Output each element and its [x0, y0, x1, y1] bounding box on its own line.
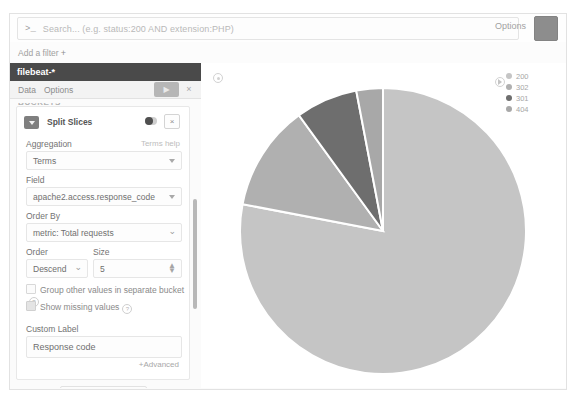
number-stepper-icon[interactable]: ▲▼	[168, 263, 176, 273]
search-input-placeholder: Search... (e.g. status:200 AND extension…	[43, 24, 234, 34]
kibana-visualize-app: >_ Search... (e.g. status:200 AND extens…	[9, 13, 567, 390]
chevron-down-icon: ⌄	[168, 227, 176, 236]
custom-label-input[interactable]: Response code	[26, 336, 182, 358]
legend-item[interactable]: 301	[506, 93, 550, 104]
chart-legend: 200302301404	[506, 71, 550, 115]
field-select-value: apache2.access.response_code	[33, 192, 155, 202]
show-missing-values-checkbox-row[interactable]: Show missing values?	[26, 301, 132, 314]
order-select-value: Descend	[33, 264, 67, 274]
enable-aggregation-toggle[interactable]	[145, 117, 157, 125]
field-label: Field	[26, 175, 44, 185]
bucket-aggregation-card: Split Slices × Aggregation Terms help Te…	[16, 106, 190, 380]
show-missing-values-checkbox[interactable]	[26, 301, 36, 311]
order-label: Order	[26, 247, 48, 257]
chevron-down-icon: ⌄	[74, 263, 82, 272]
order-by-select[interactable]: metric: Total requests ⌄	[26, 223, 182, 242]
show-missing-values-label: Show missing values	[40, 302, 119, 312]
legend-color-swatch	[506, 84, 512, 90]
legend-item[interactable]: 302	[506, 82, 550, 93]
plus-icon: +	[61, 48, 66, 58]
legend-item[interactable]: 404	[506, 104, 550, 115]
search-submit-button[interactable]	[534, 16, 558, 41]
aggregation-help-link[interactable]: Terms help	[141, 139, 180, 148]
size-input[interactable]: 5 ▲▼	[93, 259, 182, 278]
custom-label-input-value: Response code	[33, 342, 96, 352]
help-icon[interactable]: ?	[122, 304, 132, 314]
chevron-down-icon	[169, 195, 175, 199]
advanced-toggle-link[interactable]: +Advanced	[139, 360, 179, 369]
editor-tabs: Data Options ▶ ×	[10, 81, 201, 99]
aggregation-select-value: Terms	[33, 156, 56, 166]
custom-label-label: Custom Label	[26, 324, 78, 334]
legend-color-swatch	[506, 73, 512, 79]
size-label: Size	[93, 247, 110, 257]
pie-chart[interactable]	[209, 75, 554, 375]
legend-color-swatch	[506, 106, 512, 112]
search-input[interactable]: >_ Search... (e.g. status:200 AND extens…	[17, 17, 519, 40]
tab-data[interactable]: Data	[18, 85, 36, 95]
add-filter-button[interactable]: Add a filter+	[18, 48, 66, 58]
chart-area: 200302301404	[201, 63, 566, 388]
query-bar: >_ Search... (e.g. status:200 AND extens…	[10, 14, 566, 43]
filter-bar: Add a filter+	[10, 42, 566, 64]
visualization-editor-panel: filebeat-* Data Options ▶ × BUCKETS Spli…	[10, 63, 202, 388]
bucket-type-label: Split Slices	[47, 117, 92, 127]
apply-changes-button[interactable]: ▶	[154, 82, 179, 97]
legend-item-label: 302	[516, 83, 529, 92]
workspace: filebeat-* Data Options ▶ × BUCKETS Spli…	[10, 63, 566, 388]
tab-options[interactable]: Options	[44, 85, 73, 95]
index-pattern-title: filebeat-*	[17, 67, 55, 77]
chevron-down-icon	[169, 159, 175, 163]
order-select[interactable]: Descend ⌄	[26, 259, 88, 278]
legend-item-label: 301	[516, 94, 529, 103]
collapse-toggle-icon[interactable]	[24, 116, 39, 129]
group-other-values-label: Group other values in separate bucket	[40, 285, 184, 295]
legend-item[interactable]: 200	[506, 71, 550, 82]
aggregation-select[interactable]: Terms	[26, 151, 182, 170]
editor-panel-header: filebeat-*	[10, 63, 201, 81]
editor-vertical-scrollbar[interactable]	[193, 199, 197, 309]
legend-color-swatch	[506, 95, 512, 101]
order-by-label: Order By	[26, 211, 60, 221]
field-select[interactable]: apache2.access.response_code	[26, 187, 182, 206]
editor-scroll-region: BUCKETS Split Slices × Aggregation Terms…	[10, 98, 201, 388]
add-sub-buckets-button[interactable]: Add sub-buckets	[60, 386, 147, 388]
close-editor-button[interactable]: ×	[182, 82, 196, 97]
query-options-button[interactable]: Options	[495, 21, 526, 31]
group-other-values-checkbox[interactable]	[26, 284, 36, 294]
order-by-select-value: metric: Total requests	[33, 228, 114, 238]
legend-item-label: 200	[516, 72, 529, 81]
add-filter-label: Add a filter	[18, 48, 59, 58]
size-input-value: 5	[100, 264, 105, 274]
remove-aggregation-button[interactable]: ×	[164, 114, 180, 129]
legend-collapse-icon[interactable]	[495, 77, 505, 87]
legend-item-label: 404	[516, 105, 529, 114]
console-prompt-icon: >_	[25, 24, 36, 34]
aggregation-label: Aggregation	[26, 139, 72, 149]
